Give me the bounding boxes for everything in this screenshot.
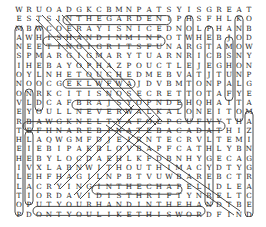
letter-cell: N <box>234 70 244 79</box>
letter-cell: P <box>164 117 174 126</box>
letter-cell: I <box>164 14 174 23</box>
letter-cell: R <box>54 51 64 60</box>
letter-cell: N <box>74 117 84 126</box>
letter-cell: Y <box>24 70 34 79</box>
letter-cell: U <box>154 42 164 51</box>
letter-cell: Y <box>174 5 184 14</box>
letter-cell: G <box>54 79 64 88</box>
letter-cell: W <box>54 135 64 144</box>
letter-cell: O <box>184 107 194 116</box>
letter-cell: T <box>124 191 134 200</box>
letter-cell: H <box>24 61 34 70</box>
letter-cell: N <box>174 51 184 60</box>
letter-cell: L <box>54 107 64 116</box>
letter-cell: E <box>134 89 144 98</box>
letter-cell: G <box>84 182 94 191</box>
letter-cell: L <box>104 144 114 153</box>
letter-cell: H <box>114 163 124 172</box>
letter-cell: I <box>164 163 174 172</box>
letter-cell: A <box>184 172 194 181</box>
letter-cell: N <box>14 42 24 51</box>
letter-cell: S <box>134 42 144 51</box>
letter-cell: R <box>214 5 224 14</box>
letter-cell: D <box>134 70 144 79</box>
letter-cell: E <box>144 126 154 135</box>
letter-cell: A <box>94 154 104 163</box>
letter-cell: T <box>224 107 234 116</box>
letter-cell: E <box>224 5 234 14</box>
letter-cell: R <box>104 42 114 51</box>
letter-cell: P <box>114 172 124 181</box>
letter-cell: P <box>174 14 184 23</box>
letter-cell: G <box>204 154 214 163</box>
letter-cell: T <box>194 70 204 79</box>
letter-cell: I <box>234 126 244 135</box>
letter-cell: H <box>204 144 214 153</box>
letter-cell: Y <box>24 107 34 116</box>
letter-cell: I <box>84 191 94 200</box>
letter-cell: S <box>44 14 54 23</box>
letter-cell: J <box>224 33 234 42</box>
letter-cell: O <box>24 79 34 88</box>
letter-cell: E <box>94 14 104 23</box>
letter-cell: N <box>74 107 84 116</box>
letter-cell: B <box>164 70 174 79</box>
letter-cell: P <box>244 70 254 79</box>
letter-cell: H <box>184 98 194 107</box>
letter-cell: D <box>64 5 74 14</box>
letter-cell: R <box>184 51 194 60</box>
letter-cell: A <box>54 163 64 172</box>
letter-cell: R <box>44 182 54 191</box>
letter-cell: N <box>104 89 114 98</box>
letter-cell: B <box>34 154 44 163</box>
letter-cell: V <box>194 135 204 144</box>
letter-cell: H <box>224 126 234 135</box>
letter-cell: L <box>64 107 74 116</box>
letter-cell: Y <box>184 191 194 200</box>
letter-cell: G <box>54 117 64 126</box>
letter-cell: G <box>244 79 254 88</box>
letter-cell: A <box>124 79 134 88</box>
letter-cell: L <box>94 210 104 219</box>
letter-cell: B <box>24 24 34 33</box>
letter-cell: U <box>134 163 144 172</box>
letter-cell: V <box>204 117 214 126</box>
letter-cell: I <box>104 126 114 135</box>
letter-cell: Q <box>44 135 54 144</box>
letter-cell: D <box>94 135 104 144</box>
letter-cell: N <box>234 210 244 219</box>
letter-cell: B <box>94 144 104 153</box>
letter-cell: L <box>194 182 204 191</box>
letter-cell: W <box>174 210 184 219</box>
letter-cell: W <box>84 163 94 172</box>
letter-cell: W <box>24 33 34 42</box>
letter-cell: B <box>74 98 84 107</box>
letter-cell: N <box>154 14 164 23</box>
letter-cell: Y <box>54 182 64 191</box>
letter-cell: I <box>204 182 214 191</box>
letter-cell: N <box>64 42 74 51</box>
letter-cell: T <box>164 61 174 70</box>
letter-cell: D <box>154 154 164 163</box>
letter-cell: R <box>124 14 134 23</box>
letter-cell: E <box>124 210 134 219</box>
letter-cell: A <box>124 117 134 126</box>
letter-cell: I <box>14 61 24 70</box>
letter-cell: C <box>174 117 184 126</box>
letter-cell: G <box>74 42 84 51</box>
letter-cell: E <box>64 24 74 33</box>
letter-cell: E <box>234 182 244 191</box>
letter-cell: H <box>64 33 74 42</box>
letter-cell: E <box>34 42 44 51</box>
letter-cell: K <box>134 154 144 163</box>
letter-cell: E <box>164 89 174 98</box>
letter-cell: G <box>194 42 204 51</box>
letter-cell: O <box>74 210 84 219</box>
letter-cell: V <box>174 70 184 79</box>
letter-cell: T <box>124 42 134 51</box>
letter-cell: D <box>214 163 224 172</box>
letter-cell: N <box>244 61 254 70</box>
letter-cell: A <box>54 5 64 14</box>
letter-cell: T <box>174 33 184 42</box>
letter-cell: F <box>134 117 144 126</box>
